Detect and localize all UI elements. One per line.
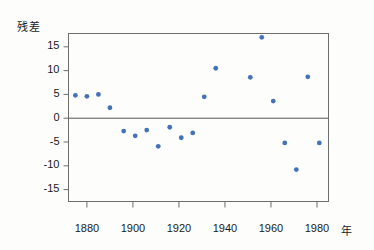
- data-point: [271, 99, 276, 104]
- x-axis-tick-label: 1960: [251, 222, 291, 234]
- y-axis-title: 残差: [17, 18, 40, 34]
- y-axis-tick-label: -10: [26, 158, 60, 170]
- data-point: [167, 125, 172, 130]
- x-axis-tick-label: 1920: [159, 222, 199, 234]
- data-point: [190, 131, 195, 136]
- data-point: [317, 141, 322, 146]
- data-point: [305, 74, 310, 79]
- y-axis-tick-label: 5: [26, 87, 60, 99]
- x-axis-tick-label: 1900: [113, 222, 153, 234]
- x-axis-tick-label: 1940: [205, 222, 245, 234]
- data-point: [85, 94, 90, 99]
- data-point: [121, 129, 126, 134]
- data-point: [202, 94, 207, 99]
- x-axis-tick-label: 1980: [297, 222, 337, 234]
- y-axis-tick-label: -5: [26, 135, 60, 147]
- data-point: [156, 144, 161, 149]
- data-point: [213, 66, 218, 71]
- y-axis-tick-label: -15: [26, 182, 60, 194]
- data-point-group: [73, 35, 322, 172]
- data-point: [259, 35, 264, 40]
- y-axis-tick-label: 15: [26, 39, 60, 51]
- data-point: [294, 167, 299, 172]
- data-point: [179, 135, 184, 140]
- data-point: [282, 141, 287, 146]
- data-point: [73, 93, 78, 98]
- data-point: [144, 128, 149, 133]
- data-point: [96, 92, 101, 97]
- data-point: [133, 133, 138, 138]
- chart-plot-area: [0, 0, 374, 250]
- x-axis-title: 年: [341, 222, 353, 238]
- data-point: [248, 75, 253, 80]
- data-point: [108, 105, 113, 110]
- residual-scatter-chart: 残差 年 151050-5-10-15 18801900192019401960…: [0, 0, 374, 250]
- y-axis-tick-label: 0: [26, 111, 60, 123]
- x-axis-tick-label: 1880: [67, 222, 107, 234]
- plot-frame: [69, 34, 329, 202]
- y-axis-tick-label: 10: [26, 63, 60, 75]
